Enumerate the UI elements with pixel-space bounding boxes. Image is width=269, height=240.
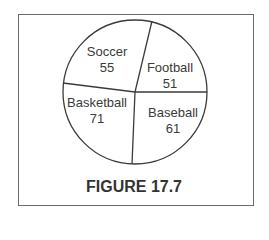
slice-name: Basketball xyxy=(67,95,127,111)
slice-value: 55 xyxy=(87,60,127,76)
slice-value: 51 xyxy=(147,76,193,92)
slice-label-soccer: Soccer 55 xyxy=(87,44,127,76)
slice-label-baseball: Baseball 61 xyxy=(148,105,198,137)
slice-name: Baseball xyxy=(148,105,198,121)
slice-label-football: Football 51 xyxy=(147,60,193,92)
slice-label-basketball: Basketball 71 xyxy=(67,95,127,127)
figure-caption: FIGURE 17.7 xyxy=(86,178,182,196)
slice-value: 71 xyxy=(67,111,127,127)
slice-name: Soccer xyxy=(87,44,127,60)
slice-value: 61 xyxy=(148,121,198,137)
slice-name: Football xyxy=(147,60,193,76)
